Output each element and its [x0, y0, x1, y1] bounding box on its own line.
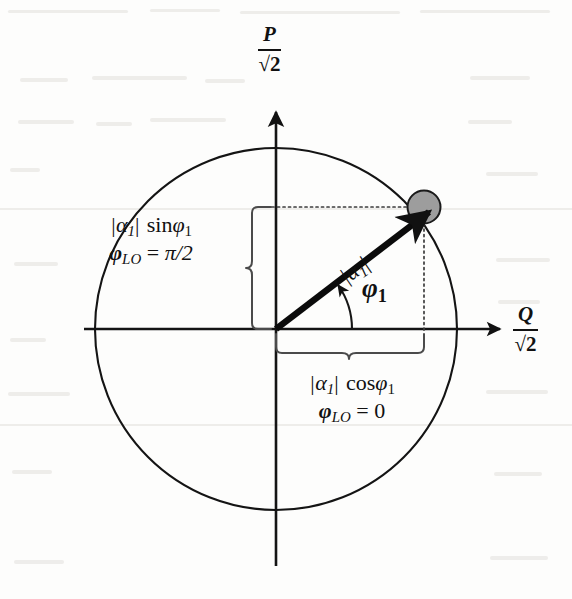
horizontal-component-line2: φLO = 0: [252, 398, 452, 426]
abs-alpha-open-sin: |α: [110, 212, 128, 237]
angle-arc: [338, 285, 352, 329]
p-axis-denominator: √2: [258, 51, 281, 78]
phi-lo-symbol-cos: φ: [319, 398, 332, 423]
vertical-component-line1: |α1| sinφ1: [53, 212, 249, 240]
q-axis-denominator: √2: [513, 331, 538, 358]
vertical-component-label: |α1| sinφ1 φLO = π/2: [53, 212, 249, 269]
horizontal-component-line1: |α1| cosφ1: [252, 370, 452, 398]
q-axis-numerator: Q: [513, 302, 538, 331]
phi-angle-sub: 1: [378, 286, 387, 306]
phi-angle-label: φ1: [362, 272, 387, 308]
abs-alpha-close-cos: |: [334, 370, 338, 395]
abs-alpha-close-sin: |: [135, 212, 139, 237]
cos-arg-phi: φ: [375, 370, 387, 395]
p-axis-label: P √2: [258, 22, 281, 77]
sin-arg-phi: φ: [172, 212, 184, 237]
cos-arg-sub: 1: [387, 381, 394, 397]
abs-alpha-sub-sin: 1: [128, 223, 135, 239]
vertical-projection-brace: [246, 207, 271, 329]
phi-lo-equals-sin: =: [147, 240, 159, 265]
abs-alpha-open-cos: |α: [309, 370, 327, 395]
horizontal-projection-brace: [276, 334, 424, 359]
sin-function-name: sin: [147, 212, 173, 237]
phi-angle-symbol: φ: [362, 273, 378, 303]
phase-space-figure: P √2 Q √2 |α1| sinφ1 φLO = π/2 |α1| cosφ…: [0, 0, 572, 599]
phi-lo-value-cos: 0: [374, 398, 385, 423]
phi-lo-sub-sin: LO: [122, 252, 141, 268]
vertical-component-line2: φLO = π/2: [53, 240, 249, 268]
phi-lo-equals-cos: =: [356, 398, 368, 423]
sin-arg-sub: 1: [185, 223, 192, 239]
phase-space-canvas: [0, 0, 572, 599]
cos-function-name: cos: [346, 370, 375, 395]
phi-lo-symbol-sin: φ: [109, 240, 122, 265]
q-axis-label: Q √2: [513, 302, 538, 357]
horizontal-component-label: |α1| cosφ1 φLO = 0: [252, 370, 452, 427]
p-axis-numerator: P: [258, 22, 281, 51]
phi-lo-value-sin: π/2: [165, 240, 193, 265]
phi-lo-sub-cos: LO: [332, 410, 351, 426]
